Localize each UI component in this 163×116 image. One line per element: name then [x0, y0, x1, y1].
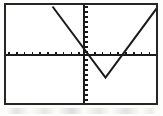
figure-caption — [0, 107, 163, 116]
graph-plot-area — [6, 5, 156, 103]
calculator-screen-frame — [4, 3, 158, 105]
calculator-screenshot — [0, 0, 163, 116]
